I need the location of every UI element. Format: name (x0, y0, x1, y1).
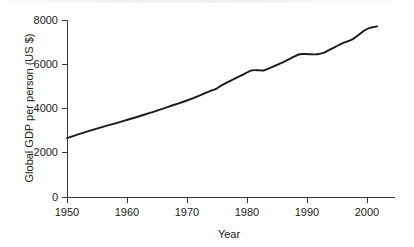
y-tick-label-0: 0 (52, 191, 58, 203)
y-tick-label-4000: 4000 (34, 102, 58, 114)
x-tick-label-1980: 1980 (235, 206, 259, 218)
x-axis-tick-labels: 1950 1960 1970 1980 1990 2000 (55, 206, 379, 218)
x-axis-title: Year (218, 228, 241, 240)
y-tick-label-8000: 8000 (34, 14, 58, 26)
y-tick-label-6000: 6000 (34, 58, 58, 70)
x-tick-label-1960: 1960 (115, 206, 139, 218)
y-tick-label-2000: 2000 (34, 146, 58, 158)
x-tick-label-1990: 1990 (295, 206, 319, 218)
x-tick-label-1970: 1970 (175, 206, 199, 218)
y-axis-title: Global GDP per person (US $) (23, 34, 35, 183)
y-axis-tick-labels: 8000 6000 4000 2000 0 (34, 14, 58, 203)
x-tick-label-2000: 2000 (355, 206, 379, 218)
x-tick-label-1950: 1950 (55, 206, 79, 218)
line-chart: 8000 6000 4000 2000 0 1950 1960 1970 198… (0, 0, 414, 247)
caption-clip-artifact (0, 0, 414, 3)
data-series-line (67, 26, 377, 138)
y-axis-ticks (62, 21, 67, 198)
chart-figure: 8000 6000 4000 2000 0 1950 1960 1970 198… (0, 0, 414, 247)
